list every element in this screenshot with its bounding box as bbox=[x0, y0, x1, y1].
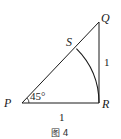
figure-caption: 图 4 bbox=[51, 128, 69, 138]
label-S: S bbox=[66, 35, 72, 49]
label-Q: Q bbox=[101, 11, 110, 25]
side-label-PR: 1 bbox=[59, 111, 65, 123]
label-P: P bbox=[3, 96, 12, 110]
arc-SR bbox=[76, 49, 99, 103]
angle-label-45: 45° bbox=[30, 90, 45, 102]
geometry-figure: P Q R S 45° 1 1 图 4 bbox=[0, 0, 121, 139]
label-R: R bbox=[101, 97, 110, 111]
side-label-QR: 1 bbox=[104, 56, 110, 68]
angle-mark-P bbox=[27, 98, 29, 103]
